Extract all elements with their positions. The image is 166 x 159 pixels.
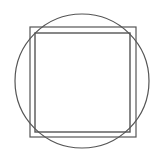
diagram-canvas: [0, 0, 166, 159]
outer-square: [30, 27, 136, 137]
inner-square: [35, 33, 130, 132]
